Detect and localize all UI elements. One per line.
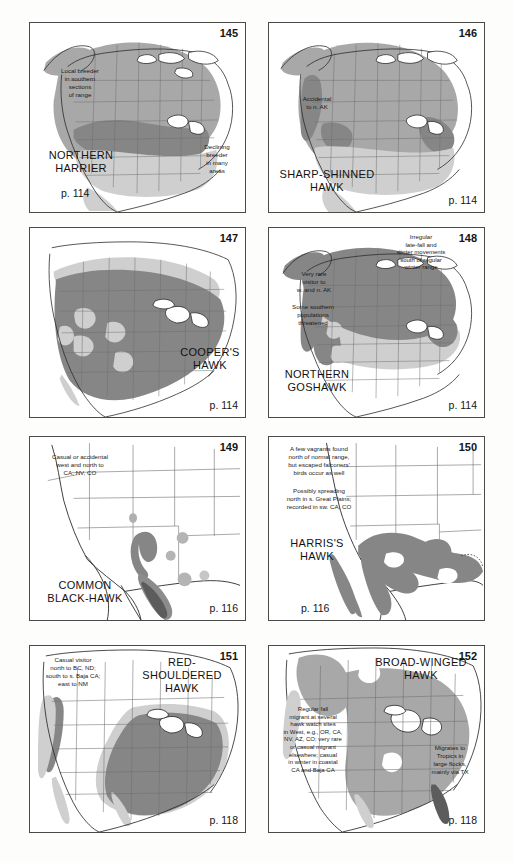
map-panel-149[interactable]: 149 Casual or accidental west and north … [29,436,246,621]
map-panel-152[interactable]: 152 BROAD-WINGED HAWK Regular fall migra… [268,645,485,833]
map-panel-145[interactable]: 145 Local breeder in southern sections o… [29,22,246,213]
range-map-sharp-shinned-hawk [269,23,484,212]
range-map-coopers-hawk [30,228,245,417]
map-panel-grid: 145 Local breeder in southern sections o… [0,0,514,863]
map-panel-150[interactable]: 150 A few vagrants found north of normal… [268,436,485,621]
range-map-northern-goshawk [269,228,484,417]
range-map-harriss-hawk [269,437,484,620]
field-guide-range-map-page: 145 Local breeder in southern sections o… [0,0,514,863]
range-map-broad-winged-hawk [269,646,484,832]
map-panel-146[interactable]: 146 Accidental to n. AK SHARP-SHINNED HA… [268,22,485,213]
map-panel-147[interactable]: 147 COOPER'S HAWK p. 114 [29,227,246,418]
map-panel-148[interactable]: 148 Irregular late-fall and winter movem… [268,227,485,418]
range-map-common-black-hawk [30,437,245,620]
range-map-northern-harrier [30,23,245,212]
map-panel-151[interactable]: 151 Casual visitor north to BC, ND; sout… [29,645,246,833]
range-map-red-shouldered-hawk [30,646,245,832]
